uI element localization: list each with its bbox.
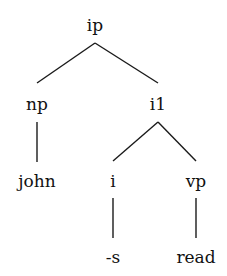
node-s: -s (106, 247, 120, 267)
edge-ip-np (37, 43, 95, 83)
tree-nodes: ip np i1 john i vp -s read (16, 15, 215, 267)
edge-ip-i1 (95, 43, 158, 83)
node-john: john (16, 171, 55, 191)
node-i1: i1 (150, 94, 166, 114)
edge-i1-vp (158, 122, 196, 161)
node-np: np (26, 94, 48, 114)
syntax-tree-diagram: ip np i1 john i vp -s read (0, 0, 227, 276)
tree-edges (37, 43, 196, 238)
node-vp: vp (185, 171, 207, 191)
edge-i1-i (113, 122, 158, 161)
node-ip: ip (87, 15, 103, 35)
node-read: read (176, 247, 215, 267)
node-i: i (110, 171, 116, 191)
